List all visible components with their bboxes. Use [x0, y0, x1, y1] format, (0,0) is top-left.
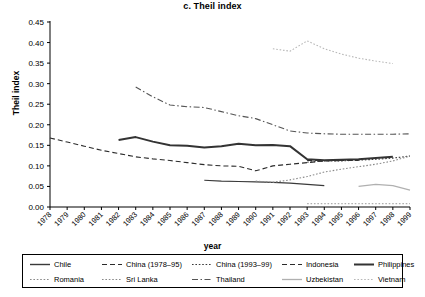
legend-item-china-1978-95[interactable]: China (1978–95)	[101, 260, 182, 269]
svg-text:1981: 1981	[87, 210, 105, 228]
legend-item-label: Chile	[54, 260, 71, 269]
legend-item-label: Romania	[54, 275, 84, 284]
legend-item-philippines[interactable]: Philippines	[353, 260, 414, 269]
plot-canvas: 0.000.050.100.150.200.250.300.350.400.45…	[0, 0, 425, 250]
legend-item-label: Uzbekistan	[306, 275, 343, 284]
svg-text:1986: 1986	[172, 210, 190, 228]
svg-text:1982: 1982	[104, 210, 122, 228]
legend-line-icon	[29, 260, 51, 269]
x-axis-group: 1978197919801981198219831984198519861987…	[35, 207, 413, 228]
legend-item-romania[interactable]: Romania	[29, 275, 84, 284]
svg-text:1978: 1978	[35, 210, 53, 228]
legend-line-icon	[191, 260, 213, 269]
series-line-chile	[204, 180, 324, 185]
legend-row-top: ChileChina (1978–95)China (1993–99)Indon…	[23, 257, 402, 272]
svg-text:1993: 1993	[292, 210, 310, 228]
legend-item-label: Indonesia	[306, 260, 339, 269]
legend-item-thailand[interactable]: Thailand	[191, 275, 245, 284]
svg-text:0.40: 0.40	[28, 39, 44, 48]
legend-item-chile[interactable]: Chile	[29, 260, 71, 269]
legend-item-label: Vietnam	[378, 275, 405, 284]
series-line-vietnam	[273, 41, 393, 64]
svg-text:0.10: 0.10	[28, 162, 44, 171]
series-line-china-1978-95	[50, 138, 341, 171]
legend-swatch-uzbekistan	[281, 275, 303, 284]
legend-swatch-china-1978-95	[101, 260, 123, 269]
chart-legend: ChileChina (1978–95)China (1993–99)Indon…	[22, 254, 403, 288]
legend-item-vietnam[interactable]: Vietnam	[353, 275, 405, 284]
legend-line-icon	[101, 275, 123, 284]
legend-item-label: Thailand	[216, 275, 245, 284]
legend-line-icon	[353, 275, 375, 284]
svg-text:0.30: 0.30	[28, 80, 44, 89]
svg-text:1980: 1980	[70, 210, 88, 228]
svg-text:0.35: 0.35	[28, 59, 44, 68]
legend-item-label: China (1993–99)	[216, 260, 272, 269]
svg-text:1985: 1985	[155, 210, 173, 228]
legend-item-china-1993-99[interactable]: China (1993–99)	[191, 260, 272, 269]
legend-line-icon	[281, 260, 303, 269]
legend-swatch-vietnam	[353, 275, 375, 284]
legend-swatch-romania	[29, 275, 51, 284]
x-tick-marks: 1978197919801981198219831984198519861987…	[35, 207, 413, 228]
svg-text:0.20: 0.20	[28, 121, 44, 130]
theil-index-chart: c. Theil index Theil index 0.000.050.100…	[0, 0, 425, 297]
svg-text:1995: 1995	[327, 210, 345, 228]
legend-swatch-chile	[29, 260, 51, 269]
svg-text:0.25: 0.25	[28, 100, 44, 109]
svg-text:1988: 1988	[207, 210, 225, 228]
legend-line-icon	[281, 275, 303, 284]
svg-text:0.15: 0.15	[28, 141, 44, 150]
svg-text:1989: 1989	[224, 210, 242, 228]
svg-text:0.45: 0.45	[28, 18, 44, 27]
svg-text:0.05: 0.05	[28, 182, 44, 191]
legend-item-label: China (1978–95)	[126, 260, 182, 269]
svg-text:1999: 1999	[395, 210, 413, 228]
series-line-philippines	[119, 137, 393, 160]
svg-text:1987: 1987	[190, 210, 208, 228]
x-axis-label: year	[0, 241, 425, 251]
svg-text:1990: 1990	[241, 210, 259, 228]
svg-text:1991: 1991	[258, 210, 276, 228]
legend-row-bottom: RomaniaSri LankaThailandUzbekistanVietna…	[23, 272, 402, 287]
svg-text:1998: 1998	[378, 210, 396, 228]
svg-text:1994: 1994	[310, 210, 328, 228]
series-line-uzbekistan	[359, 184, 410, 190]
svg-text:1997: 1997	[361, 210, 379, 228]
svg-text:1984: 1984	[138, 210, 156, 228]
svg-text:0.00: 0.00	[28, 203, 44, 212]
svg-text:1983: 1983	[121, 210, 139, 228]
svg-text:1992: 1992	[275, 210, 293, 228]
legend-swatch-thailand	[191, 275, 213, 284]
series-line-thailand	[136, 87, 410, 134]
legend-item-label: Sri Lanka	[126, 275, 158, 284]
legend-swatch-philippines	[353, 260, 375, 269]
legend-item-uzbekistan[interactable]: Uzbekistan	[281, 275, 343, 284]
y-tick-marks: 0.000.050.100.150.200.250.300.350.400.45	[28, 18, 50, 212]
legend-item-sri-lanka[interactable]: Sri Lanka	[101, 275, 158, 284]
y-axis-group: 0.000.050.100.150.200.250.300.350.400.45	[28, 18, 50, 212]
legend-item-label: Philippines	[378, 260, 414, 269]
legend-item-indonesia[interactable]: Indonesia	[281, 260, 339, 269]
legend-swatch-indonesia	[281, 260, 303, 269]
legend-line-icon	[191, 275, 213, 284]
legend-line-icon	[101, 260, 123, 269]
legend-swatch-china-1993-99	[191, 260, 213, 269]
legend-swatch-sri-lanka	[101, 275, 123, 284]
legend-line-icon	[29, 275, 51, 284]
svg-text:1996: 1996	[344, 210, 362, 228]
svg-text:1979: 1979	[52, 210, 70, 228]
legend-line-icon	[353, 260, 375, 269]
data-series-layer	[50, 41, 410, 204]
